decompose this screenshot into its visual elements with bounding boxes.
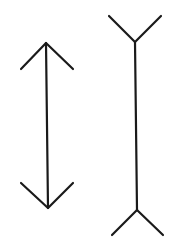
shaft-line xyxy=(46,43,48,208)
bottom-fin xyxy=(112,210,163,235)
top-fin xyxy=(109,16,161,42)
muller-lyer-diagram xyxy=(0,0,176,249)
shaft-line xyxy=(135,42,137,210)
diagram-canvas xyxy=(0,0,176,249)
inward-arrows-line xyxy=(21,43,73,208)
outward-fins-line xyxy=(109,16,163,235)
